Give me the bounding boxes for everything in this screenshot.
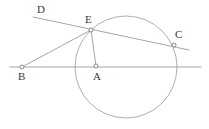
line-d-c — [33, 17, 189, 50]
point-label-D: D — [37, 4, 45, 15]
vertex-marker-C — [172, 43, 176, 47]
point-label-A: A — [93, 71, 101, 82]
figure-canvas — [0, 0, 209, 129]
point-label-C: C — [175, 29, 182, 40]
vertex-marker-E — [89, 28, 93, 32]
point-label-E: E — [85, 14, 92, 25]
segment-b-e — [22, 30, 91, 67]
vertex-marker-A — [94, 64, 98, 68]
point-label-B: B — [18, 71, 25, 82]
vertex-marker-B — [20, 65, 24, 69]
geometry-figure: D E C B A — [0, 0, 209, 129]
segment-e-a — [91, 30, 96, 66]
